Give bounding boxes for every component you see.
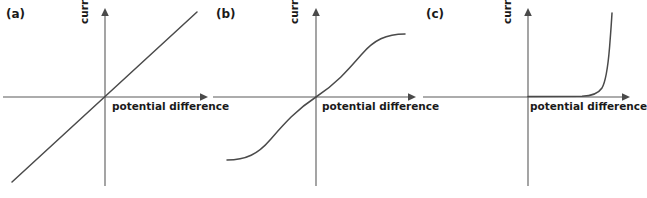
y-axis-label: current (288, 0, 300, 24)
panel-c: (c) potential difference current (420, 0, 634, 198)
panel-a: (a) potential difference current (0, 0, 210, 198)
y-axis-arrow-icon (524, 8, 532, 16)
x-axis-label: potential difference (530, 100, 647, 112)
panel-b: (b) potential difference current (210, 0, 420, 198)
y-axis-label: current (78, 0, 90, 24)
panel-c-plot (420, 0, 634, 198)
panel-a-plot (0, 0, 210, 198)
y-axis-arrow-icon (312, 8, 320, 16)
y-axis-arrow-icon (101, 8, 109, 16)
curve-diode (528, 13, 612, 97)
panel-b-plot (210, 0, 420, 198)
y-axis-label: current (501, 0, 513, 24)
